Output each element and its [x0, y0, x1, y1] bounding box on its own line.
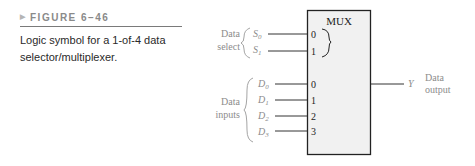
mux-box — [308, 11, 371, 155]
mux-diagram: MUX Data select S0 0 S1 1 Data inputs D0… — [0, 0, 475, 166]
data-pin-3: 3 — [311, 126, 316, 137]
select-brace-icon — [241, 28, 250, 58]
select-pin-0: 0 — [311, 29, 316, 40]
data-input-d0: D0 — [257, 78, 269, 91]
data-inputs-group: Data inputs D0 0 D1 1 D2 2 D3 3 — [216, 78, 316, 142]
data-pin-1: 1 — [311, 95, 316, 106]
output-y: Y — [408, 78, 415, 89]
data-inputs-label-line1: Data — [221, 96, 240, 107]
output-group: Y Data output — [371, 72, 451, 95]
select-input-s1: S1 — [253, 44, 262, 57]
data-input-d1: D1 — [257, 94, 269, 107]
select-input-s0: S0 — [253, 28, 262, 41]
mux-title: MUX — [326, 15, 352, 27]
select-label-line1: Data — [221, 28, 240, 39]
select-pin-1: 1 — [311, 46, 316, 57]
data-pin-2: 2 — [311, 111, 316, 122]
data-input-d3: D3 — [257, 126, 269, 139]
output-label-line2: output — [425, 84, 451, 95]
data-pin-0: 0 — [311, 79, 316, 90]
data-inputs-brace-icon — [244, 78, 253, 142]
data-inputs-label-line2: inputs — [216, 109, 241, 120]
select-label-line2: select — [217, 41, 240, 52]
output-label-line1: Data — [425, 72, 444, 83]
data-input-d2: D2 — [257, 110, 269, 123]
